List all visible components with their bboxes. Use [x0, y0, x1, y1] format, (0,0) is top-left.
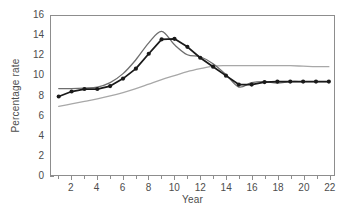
y-tick-label: 6 [24, 111, 44, 121]
x-tick-mark-minor [187, 176, 188, 179]
data-point-marker [198, 56, 202, 60]
x-tick-label: 10 [164, 183, 184, 193]
data-point-marker [314, 80, 318, 84]
x-axis-title: Year [50, 194, 335, 205]
series-dark-gray [59, 31, 329, 88]
x-tick-label: 6 [113, 183, 133, 193]
y-tick-label: 8 [24, 91, 44, 101]
plot-area [50, 15, 335, 176]
data-point-marker [262, 80, 266, 84]
data-point-marker [108, 84, 112, 88]
series-line-dark-gray [59, 31, 329, 88]
data-point-marker [211, 65, 215, 69]
x-tick-mark-minor [317, 176, 318, 179]
chart-plot-svg [51, 16, 334, 175]
x-tick-mark [71, 176, 72, 180]
x-tick-label: 22 [320, 183, 340, 193]
x-tick-mark-minor [136, 176, 137, 179]
x-tick-mark-minor [161, 176, 162, 179]
data-point-marker [185, 45, 189, 49]
x-tick-mark-minor [84, 176, 85, 179]
data-point-marker [134, 67, 138, 71]
x-tick-mark [174, 176, 175, 180]
x-tick-mark [330, 176, 331, 180]
chart-figure: Percentage rate 0246810121416 2468101214… [0, 0, 356, 214]
x-tick-mark [226, 176, 227, 180]
x-tick-mark [97, 176, 98, 180]
data-point-marker [95, 87, 99, 91]
x-tick-mark [200, 176, 201, 180]
data-point-marker [147, 52, 151, 56]
series-black-markers [57, 37, 331, 99]
x-tick-mark [123, 176, 124, 180]
data-point-marker [69, 89, 73, 93]
x-tick-label: 12 [190, 183, 210, 193]
x-tick-mark-minor [239, 176, 240, 179]
x-tick-mark [252, 176, 253, 180]
y-tick-label: 16 [24, 10, 44, 20]
x-tick-label: 8 [138, 183, 158, 193]
y-tick-label: 4 [24, 131, 44, 141]
x-tick-label: 20 [294, 183, 314, 193]
x-tick-mark-minor [265, 176, 266, 179]
data-point-marker [327, 80, 331, 84]
x-tick-mark [304, 176, 305, 180]
y-tick-label: 14 [24, 30, 44, 40]
y-tick-label: 2 [24, 151, 44, 161]
x-tick-mark-minor [58, 176, 59, 179]
series-line-black-markers [59, 39, 329, 97]
data-point-marker [172, 37, 176, 41]
y-tick-label: 0 [24, 171, 44, 181]
y-tick-label: 12 [24, 50, 44, 60]
y-tick-mark [50, 176, 54, 177]
x-tick-mark-minor [291, 176, 292, 179]
x-tick-label: 4 [87, 183, 107, 193]
data-point-marker [57, 94, 61, 98]
x-tick-mark-minor [110, 176, 111, 179]
data-point-marker [237, 82, 241, 86]
data-point-marker [160, 37, 164, 41]
data-point-marker [121, 77, 125, 81]
x-tick-label: 2 [61, 183, 81, 193]
x-tick-label: 14 [216, 183, 236, 193]
data-point-marker [224, 74, 228, 78]
data-point-marker [250, 82, 254, 86]
x-tick-label: 18 [268, 183, 288, 193]
x-tick-label: 16 [242, 183, 262, 193]
y-tick-label: 10 [24, 70, 44, 80]
y-axis-title: Percentage rate [10, 15, 24, 176]
data-point-marker [288, 80, 292, 84]
x-tick-mark [278, 176, 279, 180]
data-point-marker [82, 87, 86, 91]
x-tick-mark [148, 176, 149, 180]
data-point-marker [275, 80, 279, 84]
x-tick-mark-minor [213, 176, 214, 179]
data-point-marker [301, 80, 305, 84]
